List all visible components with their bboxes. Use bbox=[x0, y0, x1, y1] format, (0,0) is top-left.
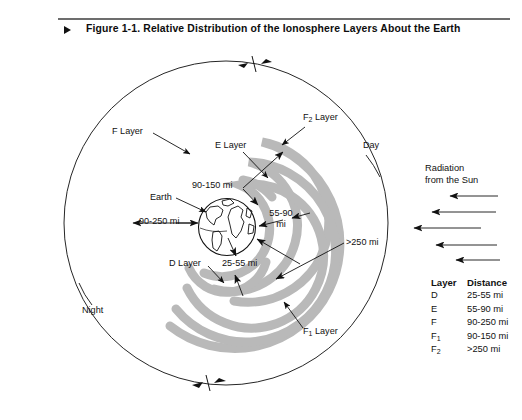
label-f2-layer-suffix: Layer bbox=[312, 112, 337, 122]
table-cell-layer-text: F bbox=[431, 317, 437, 327]
table-header-layer: Layer bbox=[431, 276, 467, 289]
table-cell-layer-sub: 2 bbox=[437, 348, 441, 355]
ionosphere-layer-bands bbox=[170, 142, 340, 348]
table-cell-distance: >250 mi bbox=[467, 343, 500, 356]
label-night: Night bbox=[82, 305, 103, 315]
table-row: F90-250 mi bbox=[431, 316, 508, 329]
dim-label-55-90-line1: 55-90 bbox=[269, 208, 292, 218]
radiation-caption: Radiation from the Sun bbox=[425, 163, 478, 186]
dim-label-gt-250-mi: >250 mi bbox=[346, 237, 379, 247]
label-f1-layer-suffix: Layer bbox=[312, 326, 337, 336]
layer-distance-table: LayerDistance D25-55 mi E55-90 mi F90-25… bbox=[431, 276, 508, 356]
dim-label-90-150-mi: 90-150 mi bbox=[192, 180, 232, 190]
table-cell-distance: 90-150 mi bbox=[467, 330, 508, 343]
table-row: E55-90 mi bbox=[431, 303, 508, 316]
table-row: F2>250 mi bbox=[431, 343, 508, 356]
dim-label-55-90-mi: 55-90mi bbox=[263, 208, 299, 230]
table-row: F190-150 mi bbox=[431, 330, 508, 343]
label-f2-layer: F2 Layer bbox=[303, 112, 338, 123]
break-marker-top bbox=[210, 56, 272, 72]
table-cell-distance: 90-250 mi bbox=[467, 316, 508, 329]
label-earth: Earth bbox=[150, 192, 172, 202]
table-cell-layer-sub: 1 bbox=[437, 335, 441, 342]
dim-label-90-250-mi: 90-250 mi bbox=[139, 216, 179, 226]
radiation-arrows bbox=[414, 196, 500, 260]
label-f1-layer: F1 Layer bbox=[303, 326, 338, 337]
label-f-layer: F Layer bbox=[112, 126, 143, 136]
table-cell-distance: 25-55 mi bbox=[467, 289, 503, 302]
table-header-row: LayerDistance bbox=[431, 276, 508, 289]
table-cell-distance: 55-90 mi bbox=[467, 303, 503, 316]
leader-earth bbox=[176, 198, 206, 212]
radiation-caption-line2: from the Sun bbox=[425, 175, 478, 185]
dim-label-25-55-mi: 25-55 mi bbox=[222, 258, 257, 268]
leader-f2-layer bbox=[282, 127, 305, 145]
table-cell-layer-text: D bbox=[431, 290, 438, 300]
label-d-layer: D Layer bbox=[169, 258, 201, 268]
dim-label-55-90-line2: mi bbox=[276, 219, 286, 229]
table-row: D25-55 mi bbox=[431, 289, 508, 302]
leader-night bbox=[79, 283, 92, 305]
band-f2-outer bbox=[170, 142, 340, 348]
earth-globe bbox=[199, 199, 256, 256]
leader-f-layer bbox=[153, 133, 190, 154]
radiation-caption-line1: Radiation bbox=[425, 163, 464, 173]
table-cell-layer: F2 bbox=[431, 343, 467, 358]
figure-page: Figure 1-1. Relative Distribution of the… bbox=[0, 0, 522, 420]
label-day: Day bbox=[363, 140, 379, 150]
break-marker-bottom bbox=[192, 375, 226, 391]
label-e-layer: E Layer bbox=[215, 140, 246, 150]
table-cell-layer-text: E bbox=[431, 304, 437, 314]
table-header-distance: Distance bbox=[467, 276, 507, 289]
